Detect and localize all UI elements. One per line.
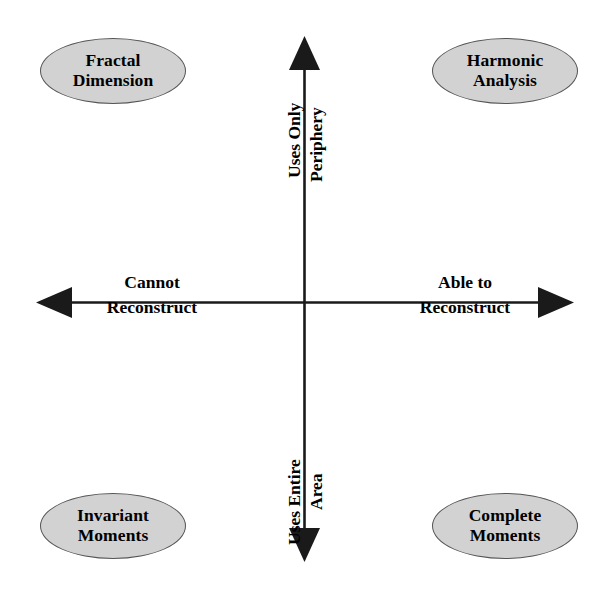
axis-label-able-to-reconstruct: Able to Reconstruct <box>390 273 540 317</box>
quadrant-diagram: Fractal Dimension Harmonic Analysis Inva… <box>0 0 613 599</box>
node-invariant-moments-line1: Invariant <box>77 506 149 526</box>
axis-label-periphery: Periphery <box>306 107 327 182</box>
axis-label-able-to-reconstruct-line2: Reconstruct <box>390 298 540 316</box>
node-harmonic-analysis-line1: Harmonic <box>467 51 544 71</box>
node-complete-moments-line1: Complete <box>469 506 542 526</box>
arrowhead-left-icon <box>36 287 72 318</box>
node-harmonic-analysis-line2: Analysis <box>473 71 537 91</box>
arrowhead-right-icon <box>538 287 574 318</box>
axis-label-area: Area <box>306 473 327 510</box>
node-complete-moments-line2: Moments <box>470 526 541 546</box>
axis-label-cannot-reconstruct-line2: Reconstruct <box>84 298 220 316</box>
axis-label-uses-entire: Uses Entire <box>284 459 305 545</box>
node-fractal-dimension-line1: Fractal <box>85 51 140 71</box>
node-harmonic-analysis[interactable]: Harmonic Analysis <box>432 38 578 104</box>
axis-label-uses-only: Uses Only <box>284 103 305 178</box>
axis-label-cannot-reconstruct: Cannot Reconstruct <box>84 273 220 317</box>
node-invariant-moments[interactable]: Invariant Moments <box>40 493 186 559</box>
node-fractal-dimension-line2: Dimension <box>73 71 154 91</box>
arrowhead-up-icon <box>289 36 320 70</box>
node-fractal-dimension[interactable]: Fractal Dimension <box>40 38 186 104</box>
axis-label-able-to-reconstruct-line1: Able to <box>390 273 540 291</box>
axis-label-cannot-reconstruct-line1: Cannot <box>84 273 220 291</box>
node-invariant-moments-line2: Moments <box>78 526 149 546</box>
node-complete-moments[interactable]: Complete Moments <box>432 493 578 559</box>
